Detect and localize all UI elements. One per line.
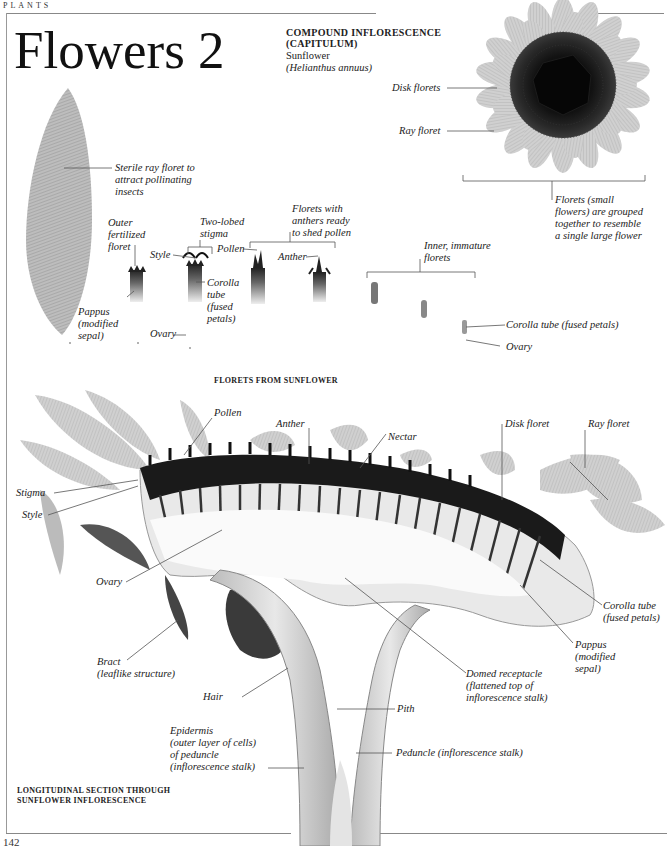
label-section-disk-floret: Disk floret	[505, 418, 549, 430]
label-disk-florets: Disk florets	[392, 82, 440, 94]
label-line: fertilized	[108, 229, 145, 241]
capitulum-heading: COMPOUND INFLORESCENCE (CAPITULUM)	[286, 27, 441, 49]
label-line: (inflorescence stalk)	[170, 761, 256, 773]
label-line: Pappus	[78, 306, 118, 318]
label-section-anther: Anther	[276, 418, 305, 430]
floret-row	[69, 250, 467, 349]
label-line: anthers ready	[292, 215, 351, 227]
label-section-bract: Bract (leaflike structure)	[97, 656, 175, 680]
label-line: Epidermis	[170, 725, 256, 737]
label-line: Florets with	[292, 203, 351, 215]
label-section-corolla-tube: Corolla tube (fused petals)	[603, 600, 660, 624]
label-section-pappus: Pappus (modified sepal)	[575, 639, 615, 675]
label-section-domed-receptacle: Domed receptacle (flattened top of inflo…	[466, 668, 548, 704]
label-inner-immature-florets: Inner, immature florets	[424, 240, 491, 264]
label-section-ovary: Ovary	[96, 576, 122, 588]
label-line: Outer	[108, 217, 145, 229]
label-line: to shed pollen	[292, 227, 351, 239]
label-line: Domed receptacle	[466, 668, 548, 680]
section-heading: LONGITUDINAL SECTION THROUGH SUNFLOWER I…	[17, 786, 170, 806]
label-line: Inner, immature	[424, 240, 491, 252]
label-section-pith: Pith	[397, 703, 415, 715]
label-corolla-tube-inner: Corolla tube (fused petals)	[506, 319, 618, 331]
page-number: 142	[3, 836, 20, 846]
label-line: inflorescence stalk)	[466, 692, 548, 704]
label-outer-fertilized-floret: Outer fertilized floret	[108, 217, 145, 253]
label-section-nectar: Nectar	[388, 431, 417, 443]
label-line: Two-lobed	[200, 216, 244, 228]
label-line: of peduncle	[170, 749, 256, 761]
florets-heading: FLORETS FROM SUNFLOWER	[214, 375, 338, 386]
label-line: Bract	[97, 656, 175, 668]
illustrations	[0, 0, 668, 846]
note-line: flowers) are grouped	[555, 206, 643, 218]
label-two-lobed-stigma: Two-lobed stigma	[200, 216, 244, 240]
latin-name: (Helianthus annuus)	[286, 62, 372, 74]
label-corolla-tube: Corolla tube (fused petals)	[207, 277, 239, 325]
label-line: tube	[207, 289, 239, 301]
common-name: Sunflower	[286, 50, 330, 62]
label-line: (outer layer of cells)	[170, 737, 256, 749]
label-line: sepal)	[575, 663, 615, 675]
label-sterile-ray-floret: Sterile ray floret to attract pollinatin…	[115, 162, 195, 198]
label-section-stigma: Stigma	[16, 487, 45, 499]
sunflower-head-illustration	[474, 0, 651, 173]
label-line: (fused	[207, 301, 239, 313]
label-section-peduncle: Peduncle (inflorescence stalk)	[396, 747, 523, 759]
label-line: sepal)	[78, 330, 118, 342]
label-line: (modified	[78, 318, 118, 330]
label-style: Style	[150, 249, 170, 261]
section-heading-line1: LONGITUDINAL SECTION THROUGH	[17, 786, 170, 796]
label-line: Sterile ray floret to	[115, 162, 195, 174]
capitulum-heading-line1: COMPOUND INFLORESCENCE	[286, 27, 441, 38]
note-line: Florets (small	[555, 194, 643, 206]
label-section-pollen: Pollen	[214, 407, 241, 419]
label-line: (leaflike structure)	[97, 668, 175, 680]
label-section-hair: Hair	[203, 691, 223, 703]
label-ray-floret: Ray floret	[399, 125, 440, 137]
label-section-epidermis: Epidermis (outer layer of cells) of pedu…	[170, 725, 256, 773]
label-line: Corolla tube	[603, 600, 660, 612]
label-line: attract pollinating	[115, 174, 195, 186]
ray-floret-petal	[26, 88, 92, 335]
label-ovary: Ovary	[150, 328, 176, 340]
label-line: stigma	[200, 228, 244, 240]
label-line: (fused petals)	[603, 612, 660, 624]
label-florets-note: Florets (small flowers) are grouped toge…	[555, 194, 643, 242]
label-line: Pappus	[575, 639, 615, 651]
label-line: (modified	[575, 651, 615, 663]
label-ovary-inner: Ovary	[506, 341, 532, 353]
label-section-ray-floret: Ray floret	[588, 418, 629, 430]
label-anther: Anther	[278, 251, 307, 263]
label-line: florets	[424, 252, 491, 264]
label-line: insects	[115, 186, 195, 198]
label-pollen: Pollen	[217, 243, 244, 255]
label-anthers-ready: Florets with anthers ready to shed polle…	[292, 203, 351, 239]
longitudinal-section-illustration	[20, 390, 665, 846]
label-line: floret	[108, 241, 145, 253]
label-line: Corolla	[207, 277, 239, 289]
label-pappus: Pappus (modified sepal)	[78, 306, 118, 342]
note-line: a single large flower	[555, 230, 643, 242]
capitulum-heading-line2: (CAPITULUM)	[286, 38, 441, 49]
label-line: (flattened top of	[466, 680, 548, 692]
note-line: together to resemble	[555, 218, 643, 230]
label-line: petals)	[207, 313, 239, 325]
section-heading-line2: SUNFLOWER INFLORESCENCE	[17, 796, 170, 806]
label-section-style: Style	[22, 509, 42, 521]
